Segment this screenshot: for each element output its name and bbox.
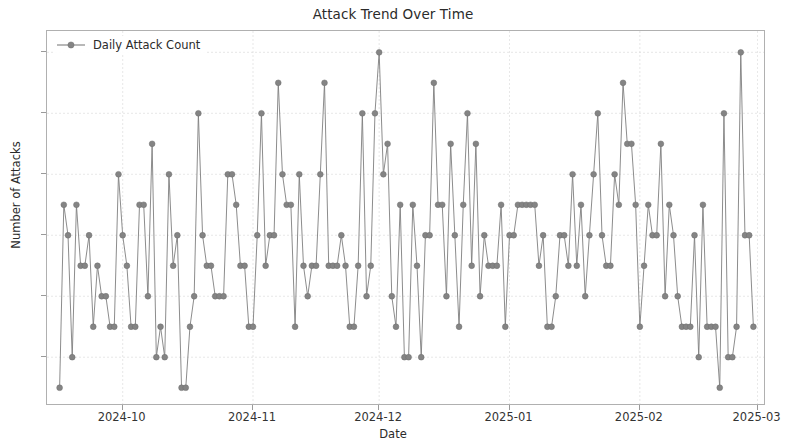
x-tick-mark (757, 405, 758, 410)
data-point-marker (662, 293, 668, 299)
data-point-marker (368, 263, 374, 269)
data-point-marker (721, 110, 727, 116)
data-point-marker (103, 293, 109, 299)
x-tick-label: 2024-12 (333, 410, 423, 424)
data-point-marker (305, 293, 311, 299)
data-point-marker (351, 324, 357, 330)
x-axis-label: Date (0, 427, 786, 441)
data-point-marker (418, 354, 424, 360)
data-point-marker (578, 202, 584, 208)
chart-legend: Daily Attack Count (54, 36, 206, 54)
data-point-marker (713, 324, 719, 330)
data-point-marker (645, 202, 651, 208)
data-point-marker (322, 80, 328, 86)
data-point-marker (385, 141, 391, 147)
data-point-marker (90, 324, 96, 330)
data-point-marker (481, 232, 487, 238)
data-point-marker (389, 293, 395, 299)
data-point-marker (254, 232, 260, 238)
data-point-marker (641, 263, 647, 269)
data-point-marker (57, 385, 63, 391)
data-point-marker (69, 354, 75, 360)
data-point-marker (654, 232, 660, 238)
data-point-marker (280, 171, 286, 177)
data-point-marker (158, 324, 164, 330)
x-tick-label: 2025-02 (594, 410, 684, 424)
data-point-marker (746, 232, 752, 238)
data-point-marker (301, 263, 307, 269)
data-point-marker (692, 232, 698, 238)
data-point-marker (612, 171, 618, 177)
data-point-marker (431, 80, 437, 86)
data-point-marker (574, 263, 580, 269)
data-point-marker (116, 171, 122, 177)
data-point-marker (145, 293, 151, 299)
data-point-marker (132, 324, 138, 330)
data-point-marker (738, 49, 744, 55)
data-point-marker (208, 263, 214, 269)
data-point-marker (700, 202, 706, 208)
data-point-marker (591, 171, 597, 177)
data-point-marker (397, 202, 403, 208)
data-point-marker (582, 293, 588, 299)
data-point-marker (671, 232, 677, 238)
data-point-marker (343, 263, 349, 269)
x-tick-mark (509, 405, 510, 410)
data-point-marker (502, 324, 508, 330)
data-point-marker (376, 49, 382, 55)
data-point-marker (271, 232, 277, 238)
data-point-marker (696, 354, 702, 360)
y-axis-label: Number of Attacks (9, 135, 23, 255)
data-point-marker (61, 202, 67, 208)
data-point-marker (149, 141, 155, 147)
data-point-marker (511, 232, 517, 238)
data-point-marker (162, 354, 168, 360)
data-point-marker (599, 232, 605, 238)
legend-label-daily-attack-count: Daily Attack Count (93, 38, 200, 52)
data-point-marker (334, 263, 340, 269)
data-point-marker (380, 171, 386, 177)
data-point-marker (717, 385, 723, 391)
data-point-marker (229, 171, 235, 177)
x-tick-label: 2025-03 (712, 410, 786, 424)
data-point-marker (565, 263, 571, 269)
data-point-marker (263, 263, 269, 269)
data-point-marker (259, 110, 265, 116)
data-point-marker (494, 263, 500, 269)
data-point-marker (666, 202, 672, 208)
data-point-marker (355, 263, 361, 269)
data-point-marker (633, 202, 639, 208)
data-point-marker (750, 324, 756, 330)
data-point-marker (439, 202, 445, 208)
data-point-marker (338, 232, 344, 238)
data-point-marker (111, 324, 117, 330)
data-point-marker (452, 232, 458, 238)
data-point-marker (469, 263, 475, 269)
data-point-marker (242, 263, 248, 269)
data-point-marker (221, 293, 227, 299)
data-point-marker (200, 232, 206, 238)
data-point-marker (729, 354, 735, 360)
data-point-marker (456, 324, 462, 330)
data-point-marker (317, 171, 323, 177)
data-point-marker (153, 354, 159, 360)
data-point-marker (120, 232, 126, 238)
data-point-marker (195, 110, 201, 116)
x-tick-mark (252, 405, 253, 410)
x-tick-mark (378, 405, 379, 410)
data-point-marker (82, 263, 88, 269)
data-point-marker (536, 263, 542, 269)
data-point-marker (296, 171, 302, 177)
data-point-marker (620, 80, 626, 86)
data-point-marker (65, 232, 71, 238)
data-point-marker (364, 293, 370, 299)
data-point-marker (734, 324, 740, 330)
data-point-marker (414, 263, 420, 269)
series-line-daily-attack-count (60, 52, 754, 387)
x-tick-label: 2024-10 (77, 410, 167, 424)
data-point-marker (275, 80, 281, 86)
data-point-marker (561, 232, 567, 238)
data-point-marker (183, 385, 189, 391)
data-point-marker (532, 202, 538, 208)
data-point-marker (187, 324, 193, 330)
